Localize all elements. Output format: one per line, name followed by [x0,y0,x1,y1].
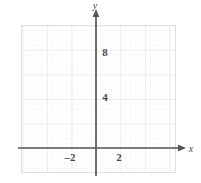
grid-lines [22,26,176,173]
x-tick-label-neg2: –2 [64,151,77,163]
y-tick-label-4: 4 [102,91,108,103]
major-gridlines [22,26,176,173]
y-axis-label: y [92,0,98,11]
plot-area: x y –2 2 4 8 [0,0,201,183]
y-tick-label-8: 8 [102,46,108,58]
x-tick-label-2: 2 [116,151,122,163]
coordinate-grid-figure: x y –2 2 4 8 [0,0,201,183]
x-axis-label: x [188,143,194,154]
